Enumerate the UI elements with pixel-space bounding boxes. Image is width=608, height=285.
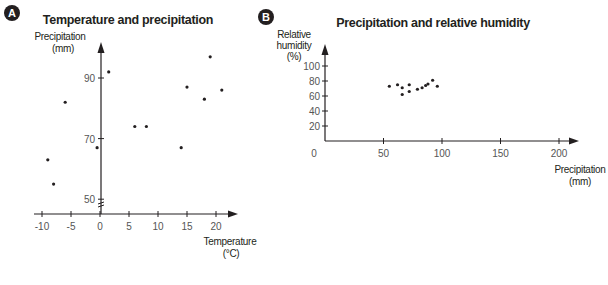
chart-a-title: Temperature and precipitation bbox=[43, 13, 213, 27]
y-axis-arrow-icon bbox=[322, 44, 329, 55]
data-point bbox=[52, 182, 55, 185]
data-point bbox=[180, 146, 183, 149]
y-tick-label: 50 bbox=[84, 194, 96, 205]
x-axis-arrow-icon bbox=[228, 211, 238, 218]
data-point bbox=[401, 86, 404, 89]
y-tick-label: 90 bbox=[84, 73, 96, 84]
y-tick-label: 20 bbox=[309, 121, 321, 132]
x-tick-label: 50 bbox=[378, 148, 390, 159]
x-tick-label: 150 bbox=[492, 148, 509, 159]
data-point bbox=[145, 125, 148, 128]
y-tick-label: 70 bbox=[84, 134, 96, 145]
data-point bbox=[209, 55, 212, 58]
panel-b: B Precipitation and relative humidity Re… bbox=[258, 9, 606, 187]
data-point bbox=[408, 90, 411, 93]
data-point bbox=[133, 125, 136, 128]
data-point bbox=[64, 101, 67, 104]
chart-b-xlabel-line2: (mm) bbox=[569, 176, 591, 187]
x-tick-label: 10 bbox=[152, 221, 164, 232]
chart-a-points bbox=[46, 55, 223, 185]
data-point bbox=[421, 86, 424, 89]
panel-b-badge: B bbox=[258, 9, 274, 25]
chart-b-points bbox=[388, 79, 439, 96]
badge-b-label: B bbox=[262, 11, 270, 23]
figure-canvas: A Temperature and precipitation Precipit… bbox=[0, 0, 608, 285]
data-point bbox=[408, 83, 411, 86]
data-point bbox=[436, 85, 439, 88]
chart-a-ylabel-line1: Precipitation bbox=[34, 31, 85, 42]
chart-b-title: Precipitation and relative humidity bbox=[336, 16, 530, 30]
chart-b-ylabel-line1: Relative bbox=[277, 29, 311, 40]
chart-a-xlabel-line1: Temperature bbox=[204, 236, 258, 247]
data-point bbox=[388, 85, 391, 88]
x-tick-label: -5 bbox=[67, 221, 76, 232]
data-point bbox=[46, 158, 49, 161]
chart-b-axes: 05010015020020406080100 bbox=[303, 44, 579, 159]
badge-a-label: A bbox=[8, 7, 16, 19]
y-tick-label: 60 bbox=[309, 91, 321, 102]
data-point bbox=[203, 98, 206, 101]
chart-a-axes: -10-505101520507090 bbox=[34, 42, 238, 232]
data-point bbox=[416, 88, 419, 91]
chart-a-xlabel-line2: (°C) bbox=[223, 248, 240, 259]
data-point bbox=[185, 85, 188, 88]
x-tick-label: 20 bbox=[210, 221, 222, 232]
data-point bbox=[431, 79, 434, 82]
y-tick-label: 40 bbox=[309, 106, 321, 117]
data-point bbox=[96, 146, 99, 149]
data-point bbox=[401, 93, 404, 96]
x-tick-label: 0 bbox=[97, 221, 103, 232]
chart-b-xlabel-line1: Precipitation bbox=[554, 164, 605, 175]
data-point bbox=[107, 70, 110, 73]
chart-a-ylabel-line2: (mm) bbox=[52, 43, 74, 54]
data-point bbox=[396, 83, 399, 86]
x-tick-label: 5 bbox=[126, 221, 132, 232]
chart-b-ylabel-line2: humidity bbox=[277, 40, 312, 51]
x-tick-label: 200 bbox=[551, 148, 568, 159]
x-tick-label: 100 bbox=[434, 148, 451, 159]
data-point bbox=[426, 82, 429, 85]
x-tick-label: 0 bbox=[311, 148, 317, 159]
x-axis-arrow-icon bbox=[569, 138, 579, 145]
y-tick-label: 80 bbox=[309, 76, 321, 87]
y-axis-arrow-icon bbox=[98, 42, 105, 53]
panel-a: A Temperature and precipitation Precipit… bbox=[4, 5, 257, 259]
panel-a-badge: A bbox=[4, 5, 20, 21]
data-point bbox=[220, 89, 223, 92]
x-tick-label: -10 bbox=[35, 221, 50, 232]
chart-b-ylabel-line3: (%) bbox=[287, 51, 302, 62]
y-tick-label: 100 bbox=[303, 61, 320, 72]
x-tick-label: 15 bbox=[181, 221, 193, 232]
